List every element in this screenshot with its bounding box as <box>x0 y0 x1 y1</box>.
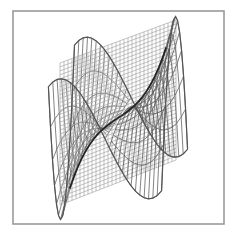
surface-diagram <box>0 0 235 236</box>
